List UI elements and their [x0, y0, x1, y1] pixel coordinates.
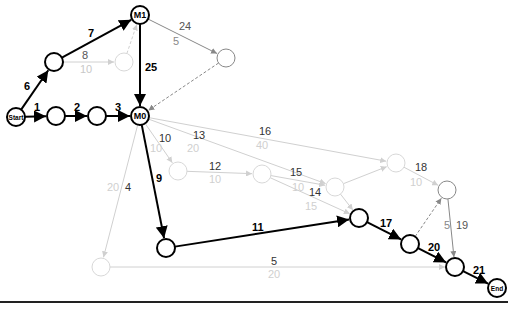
node-circle: [387, 154, 405, 172]
edge-label: 15: [305, 200, 317, 212]
edge-label: 6: [24, 80, 30, 92]
node-m1: M1: [131, 6, 149, 24]
node-circle: [92, 258, 110, 276]
edge-label: 24: [179, 20, 191, 32]
edge-label: 16: [259, 125, 271, 137]
edge-label: 10: [410, 176, 422, 188]
edge-label: 10: [292, 181, 304, 193]
edge-label: 19: [456, 219, 468, 231]
edge-label: 9: [156, 172, 162, 184]
node-n15: [326, 178, 344, 196]
edge-label: 10: [80, 63, 92, 75]
node-circle: [438, 181, 456, 199]
edge-label: 5: [444, 219, 450, 231]
edge-label: 5: [271, 255, 277, 267]
node-m0: M0: [131, 107, 149, 125]
node-circle: [157, 239, 175, 257]
edge-label: 7: [88, 27, 94, 39]
edge-label: 2: [74, 101, 80, 113]
edge-label: 20: [107, 181, 119, 193]
node-n2: [88, 107, 106, 125]
node-label: End: [491, 285, 503, 292]
node-n21: [446, 258, 464, 276]
edge-label: 13: [193, 129, 205, 141]
edge-label: 25: [145, 61, 157, 73]
node-n20: [401, 235, 419, 253]
edge-start-n1: [25, 116, 46, 117]
node-circle: [253, 165, 271, 183]
edge-label: 18: [415, 161, 427, 173]
edge-label: 1: [34, 101, 40, 113]
node-n16: [387, 154, 405, 172]
edge-label: 20: [268, 268, 280, 280]
node-n6: [45, 53, 63, 71]
edge-label: 5: [173, 35, 179, 47]
edge-n15-n17: [341, 194, 353, 210]
node-n4: [92, 258, 110, 276]
node-n10: [169, 162, 187, 180]
node-circle: [47, 107, 65, 125]
edge-n20-n18: [415, 198, 441, 236]
edge-label: 8: [82, 49, 88, 61]
node-n17: [350, 209, 368, 227]
node-n1: [47, 107, 65, 125]
node-circle: [45, 53, 63, 71]
network-diagram: StartM0M1End 123678102524510101320164012…: [0, 0, 515, 309]
node-circle: [350, 209, 368, 227]
edge-n24-m0: [148, 63, 218, 110]
edge-n8-m1: [127, 24, 137, 53]
node-n18: [438, 181, 456, 199]
edge-label: 10: [209, 173, 221, 185]
edge-label: 17: [380, 217, 392, 229]
node-circle: [88, 107, 106, 125]
node-n24: [217, 49, 235, 67]
edge-n6-m1: [62, 20, 131, 58]
edge-label: 20: [428, 241, 440, 253]
node-circle: [217, 49, 235, 67]
node-start: Start: [7, 108, 25, 126]
node-n9: [157, 239, 175, 257]
edge-label: 15: [290, 166, 302, 178]
node-circle: [401, 235, 419, 253]
edge-label: 11: [252, 221, 264, 233]
node-circle: [446, 258, 464, 276]
node-label: M0: [134, 111, 147, 121]
edge-label: 12: [209, 160, 221, 172]
node-circle: [115, 53, 133, 71]
node-n8: [115, 53, 133, 71]
node-end: End: [488, 279, 506, 297]
edge-label: 20: [187, 142, 199, 154]
edge-label: 10: [150, 142, 162, 154]
edge-label: 21: [473, 264, 485, 276]
node-label: M1: [134, 10, 147, 20]
edge-n15-n16: [343, 167, 386, 184]
node-n12: [253, 165, 271, 183]
edge-label: 40: [256, 139, 268, 151]
node-label: Start: [9, 114, 25, 121]
node-circle: [169, 162, 187, 180]
edge-label: 3: [115, 101, 121, 113]
edge-label: 4: [125, 181, 131, 193]
node-circle: [326, 178, 344, 196]
edge-label: 14: [309, 186, 321, 198]
